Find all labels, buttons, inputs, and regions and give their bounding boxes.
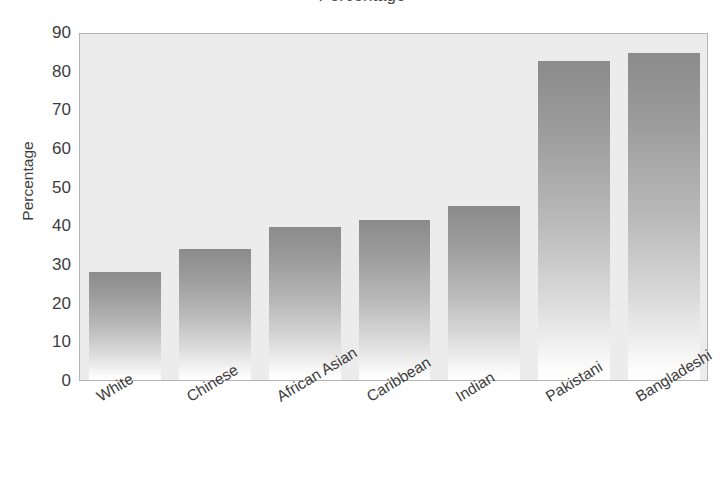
x-tick-label: African Asian (274, 344, 360, 404)
x-tick-label: Bangladeshi (633, 347, 714, 404)
x-tick-label: Chinese (184, 362, 241, 405)
x-tick-label: Caribbean (364, 354, 433, 404)
x-axis-tick-labels: WhiteChineseAfrican AsianCaribbeanIndian… (0, 0, 724, 499)
chart-figure: Percentage Percentage 010203040506070809… (0, 0, 724, 499)
x-tick-label: Pakistani (543, 359, 605, 405)
x-tick-label: White (94, 371, 136, 405)
x-tick-label: Indian (453, 369, 497, 404)
